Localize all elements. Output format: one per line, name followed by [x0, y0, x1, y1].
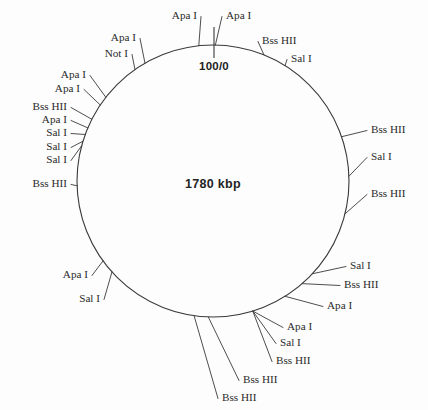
restriction-site-label: Bss HII	[344, 278, 379, 290]
site-leader-line	[71, 108, 92, 120]
site-leader-line	[84, 90, 100, 105]
restriction-site-label: Bss HII	[243, 373, 278, 385]
site-leader-line	[199, 17, 201, 46]
site-leader-line	[92, 261, 103, 276]
site-leader-line	[71, 185, 77, 186]
restriction-site-label: Apa I	[111, 31, 136, 43]
genome-map-svg: Apa IApa IBss HIISal IBss HIISal IBss HI…	[0, 0, 428, 410]
leader-lines-group	[71, 17, 367, 399]
restriction-site-label: Apa I	[63, 268, 88, 280]
origin-label: 100/0	[199, 60, 229, 72]
restriction-site-label: Apa I	[226, 9, 251, 21]
site-leader-line	[104, 272, 112, 300]
restriction-site-label: Bss HII	[371, 187, 406, 199]
restriction-site-label: Sal I	[280, 336, 301, 348]
genome-size-label: 1780 kbp	[185, 177, 241, 191]
site-leader-line	[215, 17, 222, 46]
restriction-site-label: Apa I	[287, 320, 312, 332]
restriction-site-label: Not I	[105, 47, 129, 59]
site-leader-line	[90, 76, 106, 98]
restriction-site-label: Sal I	[79, 292, 100, 304]
restriction-site-label: Sal I	[46, 126, 67, 138]
site-leader-line	[253, 311, 272, 361]
restriction-site-label: Sal I	[350, 259, 371, 271]
circular-genome-map: Apa IApa IBss HIISal IBss HIISal IBss HI…	[0, 0, 428, 410]
restriction-site-label: Sal I	[46, 153, 67, 165]
restriction-site-label: Sal I	[46, 140, 67, 152]
site-leader-line	[253, 311, 276, 343]
site-leader-line	[71, 121, 88, 128]
restriction-site-label: Bss HII	[276, 354, 311, 366]
restriction-site-label: Bss HII	[262, 34, 297, 46]
site-leader-line	[140, 39, 145, 64]
restriction-site-label: Bss HII	[33, 177, 68, 189]
restriction-site-label: Apa I	[61, 68, 86, 80]
restriction-site-label: Apa I	[42, 113, 67, 125]
restriction-site-label: Bss HII	[371, 123, 406, 135]
restriction-site-label: Apa I	[327, 299, 352, 311]
site-leader-line	[208, 317, 239, 381]
site-leader-line	[285, 60, 287, 66]
site-leader-line	[253, 311, 283, 327]
restriction-site-label: Apa I	[172, 9, 197, 21]
restriction-site-label: Sal I	[371, 150, 392, 162]
site-leader-line	[194, 316, 218, 399]
restriction-site-label: Bss HII	[222, 391, 257, 403]
restriction-site-label: Sal I	[291, 52, 312, 64]
site-leader-line	[132, 55, 135, 70]
restriction-site-label: Bss HII	[33, 100, 68, 112]
site-leader-line	[71, 134, 85, 135]
restriction-site-label: Apa I	[55, 82, 80, 94]
site-leader-line	[285, 296, 323, 306]
site-leader-line	[302, 284, 340, 286]
site-leader-line	[342, 131, 367, 137]
site-leader-line	[349, 158, 367, 177]
